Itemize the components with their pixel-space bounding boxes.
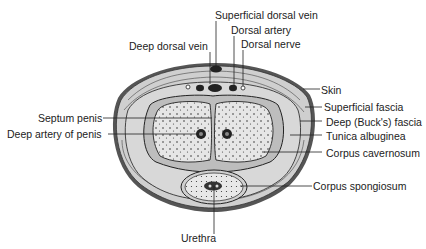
label-deep-artery-of-penis: Deep artery of penis xyxy=(7,128,102,140)
label-deep-bucks-fascia: Deep (Buck's) fascia xyxy=(326,116,422,128)
label-septum-penis: Septum penis xyxy=(38,112,102,124)
label-skin: Skin xyxy=(321,84,341,96)
label-deep-dorsal-vein: Deep dorsal vein xyxy=(129,40,208,52)
label-dorsal-nerve: Dorsal nerve xyxy=(241,38,301,50)
label-corpus-cavernosum: Corpus cavernosum xyxy=(326,147,420,159)
label-corpus-spongiosum: Corpus spongiosum xyxy=(313,180,406,192)
label-tunica-albuginea: Tunica albuginea xyxy=(326,130,406,142)
label-urethra: Urethra xyxy=(181,232,216,244)
label-dorsal-artery: Dorsal artery xyxy=(231,24,291,36)
label-superficial-fascia: Superficial fascia xyxy=(324,101,403,113)
label-superficial-dorsal-vein: Superficial dorsal vein xyxy=(215,9,318,21)
